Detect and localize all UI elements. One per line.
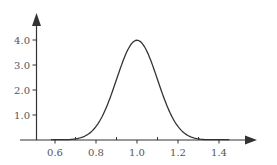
normal-distribution-chart: 0.60.81.01.21.4 1.02.03.04.0 xyxy=(0,0,277,165)
x-tick-label: 1.2 xyxy=(170,147,186,158)
y-tick-label: 4.0 xyxy=(14,35,30,46)
y-tick-label: 2.0 xyxy=(14,85,30,96)
x-tick-label: 0.6 xyxy=(47,147,63,158)
x-tick-label: 0.8 xyxy=(88,147,104,158)
y-ticks: 1.02.03.04.0 xyxy=(14,35,36,121)
y-tick-label: 3.0 xyxy=(14,60,30,71)
y-axis-arrow-icon xyxy=(32,13,41,26)
x-axis-arrow-icon xyxy=(245,136,257,145)
x-tick-label: 1.4 xyxy=(211,147,227,158)
axes xyxy=(20,13,257,145)
y-tick-label: 1.0 xyxy=(14,110,30,121)
x-tick-label: 1.0 xyxy=(129,147,145,158)
density-curve xyxy=(51,40,229,139)
